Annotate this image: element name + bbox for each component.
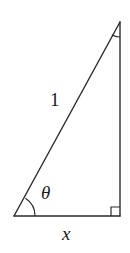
hypotenuse-label: 1 xyxy=(50,90,60,109)
hypotenuse-line xyxy=(14,22,120,216)
trigonometry-figure: 1 θ x xyxy=(0,0,130,253)
base-label: x xyxy=(62,224,70,243)
theta-angle-label: θ xyxy=(41,183,50,202)
triangle-diagram-svg xyxy=(0,0,130,253)
right-angle-square xyxy=(111,207,120,216)
theta-angle-arc xyxy=(26,198,36,216)
apex-angle-arc xyxy=(112,35,120,37)
